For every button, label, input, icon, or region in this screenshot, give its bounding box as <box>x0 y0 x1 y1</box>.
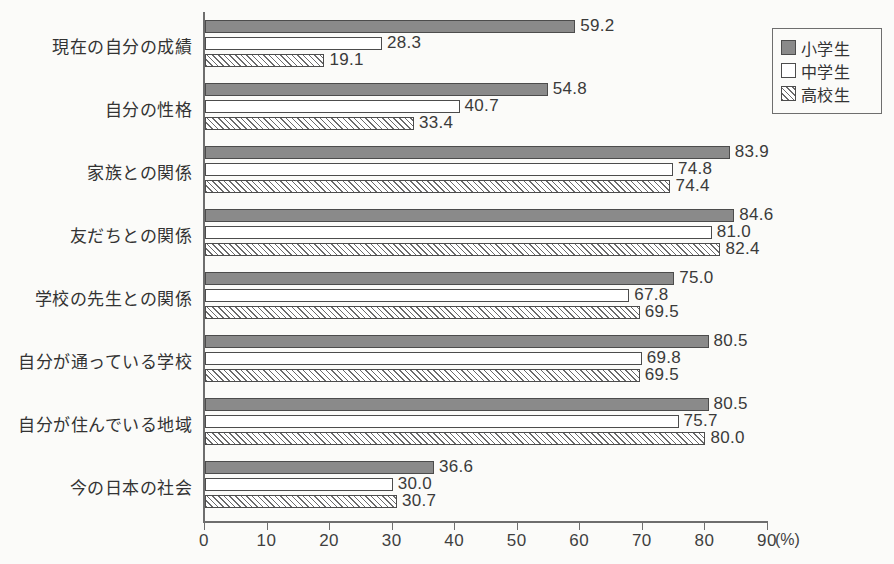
bar-2 <box>205 495 397 508</box>
legend-swatch-white-outline-icon <box>781 63 796 78</box>
legend-label-2: 高校生 <box>801 82 850 106</box>
x-axis-tick <box>642 523 643 530</box>
x-axis-tick-label: 30 <box>382 531 402 551</box>
x-axis-tick-label: 20 <box>319 531 339 551</box>
bar-2 <box>205 432 705 445</box>
category-label: 今の日本の社会 <box>70 474 193 499</box>
x-axis-line <box>203 521 768 523</box>
bar-value-label: 33.4 <box>419 113 453 133</box>
x-axis-unit-label: (%) <box>775 531 800 549</box>
bar-value-label: 74.4 <box>675 176 709 196</box>
legend-label-1: 中学生 <box>801 59 850 83</box>
x-axis-tick-label: 60 <box>569 531 589 551</box>
bar-value-label: 80.5 <box>714 331 748 351</box>
bar-1 <box>205 100 460 113</box>
category-label: 友だちとの関係 <box>70 222 193 247</box>
x-axis-tick-label: 40 <box>444 531 464 551</box>
bar-0 <box>205 272 674 285</box>
x-axis-tick <box>392 523 393 530</box>
bar-value-label: 80.0 <box>710 428 744 448</box>
x-axis-tick-label: 50 <box>507 531 527 551</box>
x-axis-tick <box>517 523 518 530</box>
bar-value-label: 80.5 <box>714 394 748 414</box>
bar-value-label: 54.8 <box>553 79 587 99</box>
bar-2 <box>205 180 670 193</box>
bar-value-label: 36.6 <box>439 457 473 477</box>
bar-value-label: 40.7 <box>465 96 499 116</box>
bar-0 <box>205 335 709 348</box>
bar-2 <box>205 369 640 382</box>
bar-1 <box>205 478 393 491</box>
bar-1 <box>205 37 382 50</box>
x-axis-tick <box>767 523 768 530</box>
x-axis-tick-label: 10 <box>257 531 277 551</box>
chart-legend: 小学生 中学生 高校生 <box>772 28 882 114</box>
category-label: 現在の自分の成績 <box>52 33 192 58</box>
bar-1 <box>205 352 642 365</box>
category-label: 自分が住んでいる地域 <box>18 411 192 436</box>
legend-swatch-solid-gray-icon <box>781 40 796 55</box>
bar-value-label: 75.0 <box>679 268 713 288</box>
x-axis-tick <box>329 523 330 530</box>
bar-1 <box>205 163 673 176</box>
bar-0 <box>205 20 575 33</box>
x-axis-tick <box>204 523 205 530</box>
category-label: 自分が通っている学校 <box>18 348 192 373</box>
bar-0 <box>205 83 548 96</box>
bar-2 <box>205 117 414 130</box>
bar-0 <box>205 398 709 411</box>
legend-label-0: 小学生 <box>801 36 850 60</box>
bar-1 <box>205 415 679 428</box>
bar-0 <box>205 209 734 222</box>
bar-value-label: 83.9 <box>735 142 769 162</box>
bar-chart: 0102030405060708090 (%) 現在の自分の成績自分の性格家族と… <box>0 0 894 564</box>
category-label: 自分の性格 <box>105 96 193 121</box>
x-axis-tick <box>579 523 580 530</box>
bar-1 <box>205 226 712 239</box>
x-axis-tick <box>267 523 268 530</box>
bar-value-label: 59.2 <box>580 16 614 36</box>
legend-item-2: 高校生 <box>781 82 873 105</box>
x-axis-tick <box>454 523 455 530</box>
bar-0 <box>205 461 434 474</box>
bar-2 <box>205 306 640 319</box>
bar-2 <box>205 54 324 67</box>
bar-0 <box>205 146 730 159</box>
legend-item-0: 小学生 <box>781 36 873 59</box>
legend-item-1: 中学生 <box>781 59 873 82</box>
x-axis-tick-label: 0 <box>199 531 209 551</box>
legend-swatch-diagonal-hatch-icon <box>781 86 796 101</box>
bar-value-label: 69.5 <box>645 365 679 385</box>
category-label: 学校の先生との関係 <box>35 285 193 310</box>
bar-value-label: 69.5 <box>645 302 679 322</box>
bar-value-label: 30.7 <box>402 491 436 511</box>
category-label: 家族との関係 <box>87 159 192 184</box>
bar-value-label: 19.1 <box>329 50 363 70</box>
bar-value-label: 82.4 <box>725 239 759 259</box>
x-axis-tick-label: 70 <box>632 531 652 551</box>
bar-2 <box>205 243 720 256</box>
bar-1 <box>205 289 629 302</box>
bar-value-label: 28.3 <box>387 33 421 53</box>
x-axis-tick <box>704 523 705 530</box>
x-axis-tick-label: 90 <box>757 531 777 551</box>
x-axis-tick-label: 80 <box>694 531 714 551</box>
